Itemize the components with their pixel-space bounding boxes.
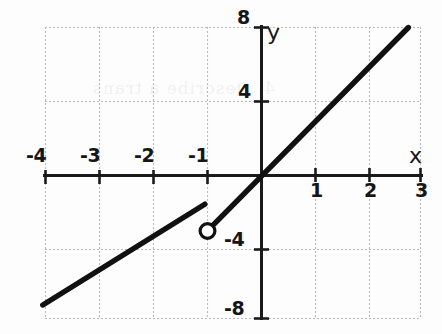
y-axis-label: y	[267, 22, 280, 44]
y-tick-label--8: -8	[224, 299, 244, 318]
plotted-function	[43, 28, 409, 306]
x-axis-label: x	[409, 145, 422, 167]
y-tick-label-4: 4	[238, 82, 251, 101]
y-tick-label--4: -4	[224, 230, 244, 249]
graph-figure: 4. Describe a trans	[0, 0, 442, 334]
x-tick-label-1: 1	[310, 181, 323, 200]
coordinate-plane	[0, 0, 442, 334]
y-tick-label-8: 8	[237, 8, 250, 27]
x-tick-label-3: 3	[415, 181, 428, 200]
x-tick-label--4: -4	[26, 146, 46, 165]
x-tick-label--2: -2	[134, 146, 154, 165]
open-circle-point	[200, 224, 215, 239]
x-tick-label-2: 2	[364, 181, 377, 200]
x-tick-label--1: -1	[188, 146, 208, 165]
left-branch-segment	[43, 204, 205, 305]
right-branch-ray	[206, 28, 408, 232]
x-tick-label--3: -3	[80, 146, 100, 165]
